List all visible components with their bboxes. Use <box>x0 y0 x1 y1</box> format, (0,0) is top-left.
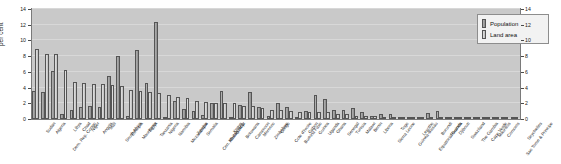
bar-group[interactable] <box>32 9 41 119</box>
bar-group[interactable] <box>314 9 323 119</box>
bar-land-area[interactable] <box>477 117 481 119</box>
bar-population[interactable] <box>257 107 261 119</box>
bar-land-area[interactable] <box>401 117 405 119</box>
bar-group[interactable] <box>323 9 332 119</box>
bar-group[interactable] <box>436 9 445 119</box>
bar-population[interactable] <box>501 117 505 119</box>
bar-population[interactable] <box>248 92 252 120</box>
bar-land-area[interactable] <box>148 92 152 119</box>
bar-population[interactable] <box>267 116 271 119</box>
bar-group[interactable] <box>107 9 116 119</box>
bar-group[interactable] <box>154 9 163 119</box>
bar-population[interactable] <box>98 107 102 119</box>
bar-land-area[interactable] <box>251 106 255 119</box>
bar-population[interactable] <box>41 92 45 119</box>
bar-population[interactable] <box>238 105 242 119</box>
bar-population[interactable] <box>323 99 327 119</box>
bar-group[interactable] <box>417 9 426 119</box>
bar-group[interactable] <box>79 9 88 119</box>
bar-land-area[interactable] <box>486 117 490 119</box>
bar-population[interactable] <box>116 56 120 119</box>
bar-population[interactable] <box>436 111 440 119</box>
bar-land-area[interactable] <box>223 103 227 119</box>
bar-group[interactable] <box>267 9 276 119</box>
bar-population[interactable] <box>314 95 318 119</box>
bar-group[interactable] <box>192 9 201 119</box>
bar-population[interactable] <box>182 109 186 119</box>
bar-land-area[interactable] <box>345 114 349 119</box>
bar-population[interactable] <box>454 117 458 119</box>
bar-land-area[interactable] <box>186 98 190 119</box>
bar-group[interactable] <box>145 9 154 119</box>
bar-population[interactable] <box>332 110 336 119</box>
bar-population[interactable] <box>398 117 402 119</box>
bar-group[interactable] <box>285 9 294 119</box>
bar-land-area[interactable] <box>176 97 180 119</box>
bar-group[interactable] <box>426 9 435 119</box>
bar-land-area[interactable] <box>505 117 509 119</box>
bar-population[interactable] <box>135 50 139 119</box>
bar-population[interactable] <box>70 110 74 119</box>
bar-group[interactable] <box>229 9 238 119</box>
bar-land-area[interactable] <box>233 103 237 119</box>
bar-population[interactable] <box>473 117 477 119</box>
bar-group[interactable] <box>464 9 473 119</box>
bar-group[interactable] <box>276 9 285 119</box>
bar-group[interactable] <box>41 9 50 119</box>
bar-population[interactable] <box>79 107 83 119</box>
bar-population[interactable] <box>163 117 167 119</box>
bar-land-area[interactable] <box>129 90 133 119</box>
bar-land-area[interactable] <box>92 84 96 119</box>
bar-land-area[interactable] <box>35 49 39 119</box>
bar-group[interactable] <box>248 9 257 119</box>
bar-group[interactable] <box>304 9 313 119</box>
bar-population[interactable] <box>351 108 355 119</box>
bar-land-area[interactable] <box>495 117 499 119</box>
bar-group[interactable] <box>88 9 97 119</box>
bar-population[interactable] <box>285 107 289 119</box>
bar-land-area[interactable] <box>64 70 68 120</box>
bar-land-area[interactable] <box>195 101 199 119</box>
bar-land-area[interactable] <box>139 91 143 119</box>
bar-land-area[interactable] <box>214 103 218 120</box>
bar-population[interactable] <box>295 117 299 119</box>
bar-population[interactable] <box>201 115 205 119</box>
bar-population[interactable] <box>492 117 496 119</box>
bar-population[interactable] <box>210 103 214 119</box>
bar-land-area[interactable] <box>336 114 340 120</box>
bar-land-area[interactable] <box>317 112 321 119</box>
bar-land-area[interactable] <box>467 117 471 119</box>
bar-land-area[interactable] <box>270 110 274 119</box>
bar-land-area[interactable] <box>157 93 161 119</box>
bar-population[interactable] <box>229 117 233 119</box>
bar-group[interactable] <box>342 9 351 119</box>
bar-population[interactable] <box>417 117 421 119</box>
bar-group[interactable] <box>173 9 182 119</box>
bar-land-area[interactable] <box>392 117 396 119</box>
bar-land-area[interactable] <box>439 117 443 119</box>
bar-land-area[interactable] <box>430 117 434 119</box>
bar-land-area[interactable] <box>364 116 368 119</box>
bar-population[interactable] <box>370 116 374 119</box>
bar-land-area[interactable] <box>514 117 518 119</box>
bar-land-area[interactable] <box>45 54 49 119</box>
bar-land-area[interactable] <box>420 117 424 119</box>
bar-population[interactable] <box>304 111 308 119</box>
bar-population[interactable] <box>107 76 111 119</box>
bar-population[interactable] <box>464 117 468 119</box>
bar-land-area[interactable] <box>448 117 452 119</box>
bar-group[interactable] <box>351 9 360 119</box>
bar-land-area[interactable] <box>458 117 462 119</box>
bar-population[interactable] <box>126 116 130 119</box>
bar-group[interactable] <box>116 9 125 119</box>
bar-population[interactable] <box>342 110 346 119</box>
bar-group[interactable] <box>163 9 172 119</box>
bar-group[interactable] <box>182 9 191 119</box>
bar-land-area[interactable] <box>54 54 58 119</box>
bar-land-area[interactable] <box>82 83 86 119</box>
bar-land-area[interactable] <box>326 112 330 119</box>
bar-land-area[interactable] <box>120 86 124 119</box>
bar-population[interactable] <box>88 106 92 119</box>
bar-population[interactable] <box>360 112 364 119</box>
bar-group[interactable] <box>454 9 463 119</box>
